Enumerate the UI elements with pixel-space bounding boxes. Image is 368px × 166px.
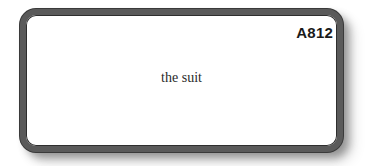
flashcard: A812 the suit xyxy=(20,9,343,152)
card-id-label: A812 xyxy=(296,24,333,41)
card-text: the suit xyxy=(26,70,337,86)
